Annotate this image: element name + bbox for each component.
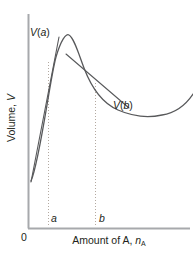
annotation-v-of-a: V(a): [30, 26, 50, 38]
annotation-v-of-b-symbol: V: [113, 99, 120, 111]
x-axis-title: Amount of A, nA: [28, 234, 190, 247]
tangent-line-a: [31, 37, 59, 182]
y-axis-title: Volume, V: [5, 83, 17, 153]
tick-label-b: b: [99, 212, 105, 224]
annotation-v-of-a-symbol: V: [30, 26, 37, 38]
chart-figure: Volume, V Amount of A, nA 0 a b V(a) V(b…: [0, 0, 193, 253]
origin-tick-label: 0: [21, 231, 27, 243]
annotation-v-of-b: V(b): [113, 99, 133, 111]
y-axis-title-symbol: V: [5, 94, 17, 101]
tick-label-a: a: [51, 212, 57, 224]
annotation-v-of-b-close: ): [129, 99, 133, 111]
y-axis-title-text: Volume,: [5, 101, 17, 142]
annotation-v-of-a-close: ): [46, 26, 50, 38]
chart-plot-area: [0, 0, 193, 253]
x-axis-title-text: Amount of A,: [72, 234, 135, 246]
x-axis-title-subscript: A: [141, 240, 146, 247]
